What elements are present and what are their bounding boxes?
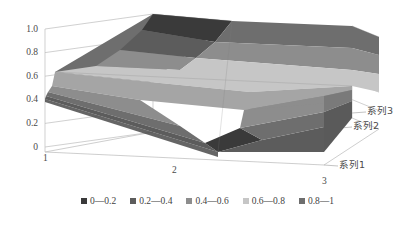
legend-item[interactable]: 0.6—0.8 <box>243 196 285 206</box>
series-label-2: 系列2 <box>353 120 379 131</box>
legend-swatch-icon <box>243 198 249 204</box>
legend-swatch-icon <box>81 198 87 204</box>
legend-item-label: 0.2—0.4 <box>139 196 172 206</box>
legend-item-label: 0.8—1 <box>308 196 334 206</box>
z-tick-3: 0.6 <box>8 71 38 81</box>
legend-item[interactable]: 0.2—0.4 <box>130 196 172 206</box>
legend-item-label: 0.4—0.6 <box>195 196 228 206</box>
series-label-3: 系列3 <box>367 105 393 116</box>
z-tick-5: 0.2 <box>8 118 38 128</box>
legend-item[interactable]: 0.8—1 <box>299 196 334 206</box>
legend-swatch-icon <box>186 198 192 204</box>
x-category-1: 1 <box>43 153 48 163</box>
chart-legend[interactable]: 0—0.2 0.2—0.4 0.4—0.6 0.6—0.8 0.8—1 <box>0 192 415 210</box>
surface-chart[interactable]: 1.0 0.8 0.6 0.4 0.2 0 1 2 3 系列3 系列2 系列1 … <box>0 0 415 228</box>
legend-item[interactable]: 0.4—0.6 <box>186 196 228 206</box>
x-category-3: 3 <box>322 176 327 186</box>
z-tick-6: 0 <box>8 142 38 152</box>
legend-swatch-icon <box>130 198 136 204</box>
series-label-1: 系列1 <box>339 159 365 170</box>
legend-item-label: 0.6—0.8 <box>252 196 285 206</box>
legend-swatch-icon <box>299 198 305 204</box>
z-tick-2: 0.8 <box>8 47 38 57</box>
legend-item[interactable]: 0—0.2 <box>81 196 116 206</box>
z-tick-4: 0.4 <box>8 94 38 104</box>
z-tick-1: 1.0 <box>8 24 38 34</box>
x-category-2: 2 <box>172 165 177 175</box>
legend-item-label: 0—0.2 <box>90 196 116 206</box>
surface-mesh <box>45 14 379 157</box>
